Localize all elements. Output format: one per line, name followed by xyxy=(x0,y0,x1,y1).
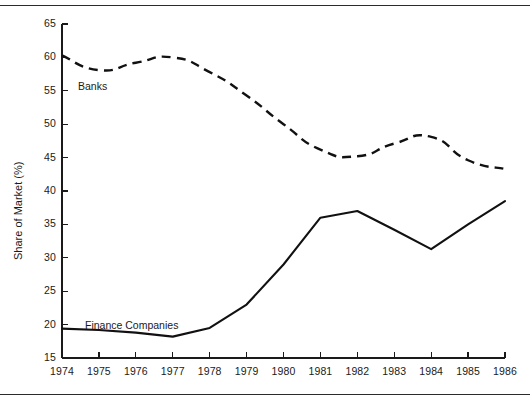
x-axis-tick-label: 1976 xyxy=(120,365,152,377)
y-axis-tick-label: 25 xyxy=(36,284,56,296)
x-axis-tick-label: 1984 xyxy=(415,365,447,377)
y-axis-tick-label: 15 xyxy=(36,351,56,363)
series-label-finance-companies: Finance Companies xyxy=(85,319,178,331)
y-axis-tick-label: 20 xyxy=(36,318,56,330)
y-axis-tick-label: 30 xyxy=(36,251,56,263)
chart-figure: 1520253035404550556065 19741975197619771… xyxy=(0,0,530,403)
x-axis-tick-label: 1975 xyxy=(83,365,115,377)
y-axis-tick-label: 65 xyxy=(36,17,56,29)
x-axis-tick-label: 1974 xyxy=(46,365,78,377)
y-axis-tick-label: 60 xyxy=(36,50,56,62)
series-line-finance-companies xyxy=(62,201,505,337)
x-axis-tick-label: 1985 xyxy=(452,365,484,377)
x-axis-tick-label: 1977 xyxy=(157,365,189,377)
x-axis-tick-label: 1980 xyxy=(268,365,300,377)
x-axis-tick-label: 1979 xyxy=(231,365,263,377)
x-axis-tick-label: 1981 xyxy=(304,365,336,377)
series-line-banks xyxy=(62,55,505,169)
y-axis-title: Share of Market (%) xyxy=(12,162,24,260)
x-axis-tick-label: 1978 xyxy=(194,365,226,377)
y-axis-tick-label: 55 xyxy=(36,84,56,96)
line-chart-plot xyxy=(0,0,530,403)
y-axis-tick-label: 45 xyxy=(36,151,56,163)
y-axis-tick-label: 50 xyxy=(36,117,56,129)
axes-group xyxy=(62,24,505,358)
x-axis-tick-label: 1986 xyxy=(489,365,521,377)
y-axis-tick-label: 40 xyxy=(36,184,56,196)
x-axis-tick-label: 1983 xyxy=(378,365,410,377)
series-label-banks: Banks xyxy=(78,80,107,92)
x-axis-tick-label: 1982 xyxy=(341,365,373,377)
y-axis-tick-label: 35 xyxy=(36,217,56,229)
series-group xyxy=(62,55,505,336)
